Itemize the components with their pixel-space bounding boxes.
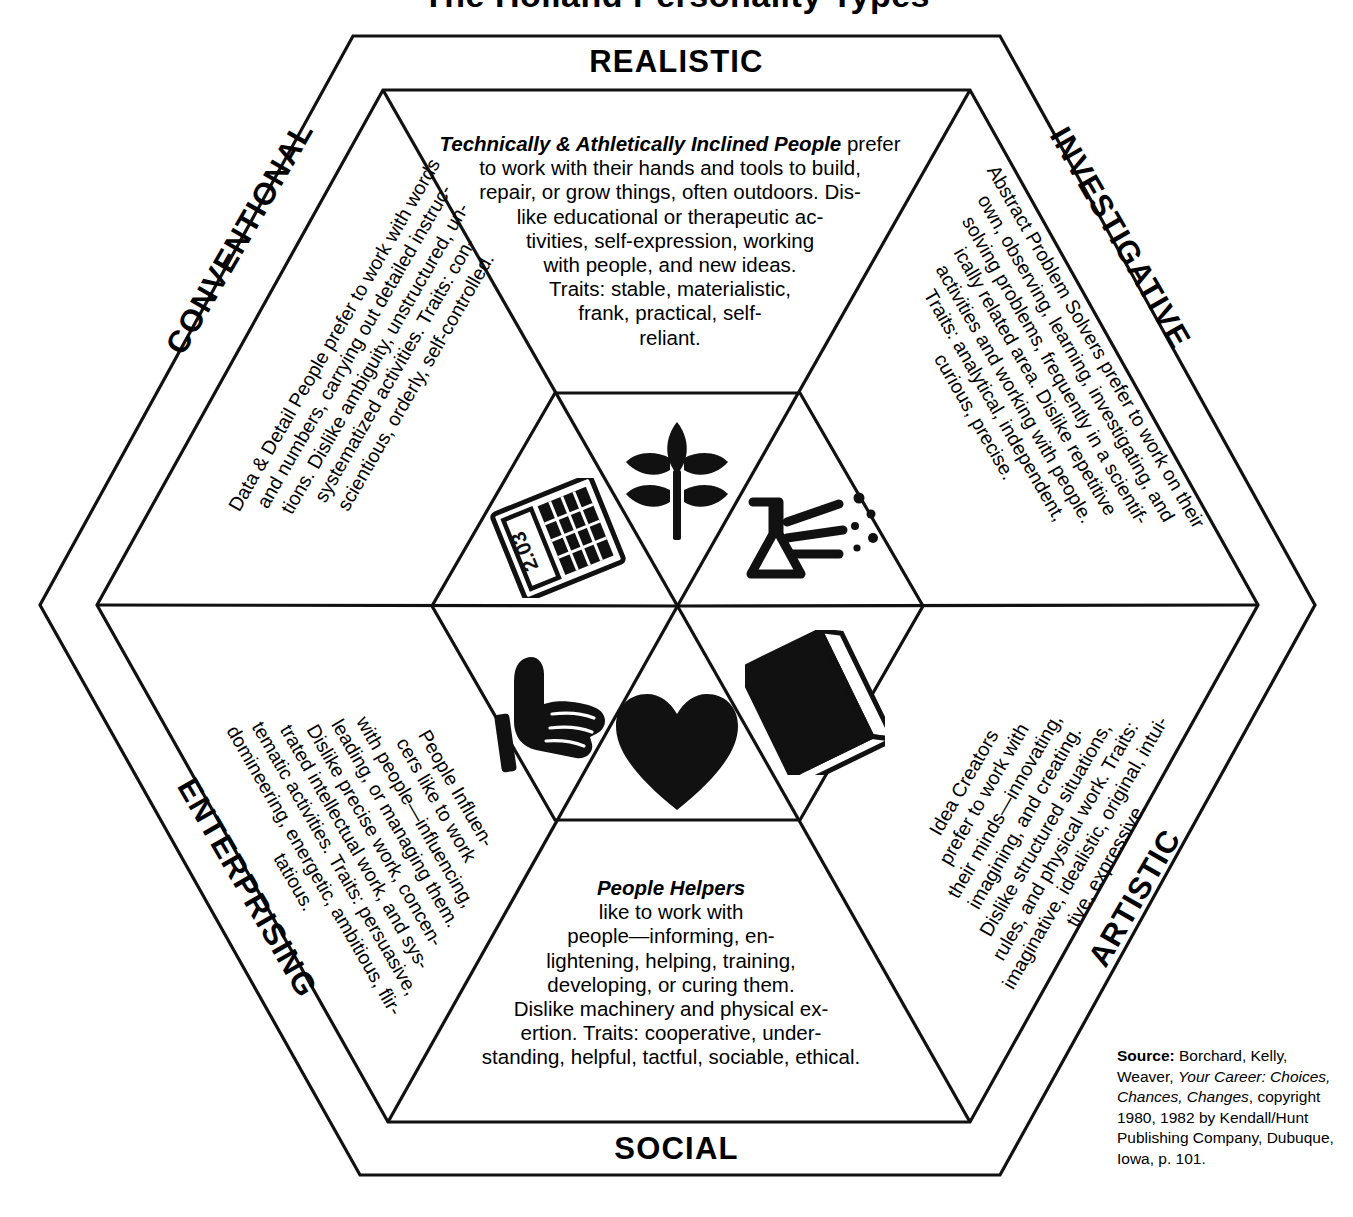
heart-icon	[612, 690, 742, 815]
source-authors: Borchard, Kelly,	[1175, 1047, 1288, 1064]
leaf-icon	[612, 418, 742, 543]
calculator-icon: 2.03	[487, 478, 629, 598]
sector-lead-phrase: Technically & Athletically Inclined Peop…	[439, 132, 841, 155]
source-book-title-2: Chances, Changes	[1117, 1088, 1249, 1105]
source-state-page: Iowa, p. 101.	[1117, 1150, 1206, 1167]
text-line: Traits: stable, materialistic,	[427, 277, 913, 301]
source-citation: Source: Borchard, Kelly, Weaver, Your Ca…	[1117, 1046, 1347, 1170]
sector-label-realistic: REALISTIC	[0, 44, 1353, 80]
holland-hexagon-figure: The Holland Personality Types	[0, 0, 1353, 1217]
source-copyright-word: , copyright	[1249, 1088, 1321, 1105]
source-years-publisher: 1980, 1982 by Kendall/Hunt	[1117, 1109, 1308, 1126]
pointing-hand-icon	[492, 648, 622, 778]
source-weaver: Weaver,	[1117, 1068, 1178, 1085]
text-line: reliant.	[427, 326, 913, 350]
text-line: standing, helpful, tactful, sociable, et…	[436, 1045, 906, 1069]
source-label: Source:	[1117, 1047, 1175, 1064]
flask-icon	[735, 478, 890, 603]
source-company-city: Publishing Company, Dubuque,	[1117, 1129, 1334, 1146]
book-icon	[745, 630, 885, 775]
text-line: frank, practical, self-	[427, 301, 913, 325]
text-line: Technically & Athletically Inclined Peop…	[427, 132, 913, 156]
source-book-title-1: Your Career: Choices,	[1178, 1068, 1331, 1085]
